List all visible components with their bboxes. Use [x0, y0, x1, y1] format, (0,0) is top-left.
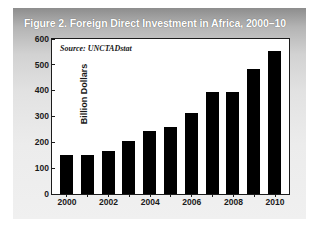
bar [164, 127, 177, 194]
y-axis-tick-label: 300 [35, 112, 49, 121]
y-axis-tick-label: 600 [35, 35, 49, 44]
bar [122, 141, 135, 194]
x-axis-tick-mark [212, 194, 213, 197]
y-axis-tick-label: 200 [35, 138, 49, 147]
bar-slot [98, 39, 119, 194]
bar [226, 92, 239, 194]
x-axis-tick-mark [254, 194, 255, 197]
bar [185, 113, 198, 194]
bar-slot [202, 39, 223, 194]
figure-title: Figure 2. Foreign Direct Investment in A… [24, 17, 286, 29]
bar-slot [160, 39, 181, 194]
x-axis-tick-mark [129, 194, 130, 197]
bar [247, 69, 260, 194]
plot-area: Source: UNCTADstat Billion Dollars 01002… [51, 38, 290, 195]
x-axis-tick-mark [87, 194, 88, 197]
bar-slot [139, 39, 160, 194]
bar-slot [264, 39, 285, 194]
bar [268, 51, 281, 194]
y-axis-tick-label: 400 [35, 86, 49, 95]
bar [60, 155, 73, 194]
bar [102, 151, 115, 194]
figure-title-bar: Figure 2. Foreign Direct Investment in A… [13, 14, 306, 31]
bar-slot [243, 39, 264, 194]
bar [143, 131, 156, 194]
x-axis-tick-label: 2008 [224, 198, 243, 207]
x-axis-tick-label: 2010 [266, 198, 285, 207]
bars-layer [52, 39, 289, 194]
x-axis-tick-label: 2006 [182, 198, 201, 207]
bar-slot [77, 39, 98, 194]
y-axis-tick-label: 0 [44, 190, 49, 199]
figure-root: Figure 2. Foreign Direct Investment in A… [0, 0, 320, 241]
bar [81, 155, 94, 194]
y-axis-tick-label: 100 [35, 164, 49, 173]
x-axis-tick-mark [170, 194, 171, 197]
x-axis-tick-label: 2002 [99, 198, 118, 207]
bar [206, 92, 219, 194]
bar-slot [118, 39, 139, 194]
bar-slot [181, 39, 202, 194]
y-axis-tick-label: 500 [35, 61, 49, 70]
bar-slot [223, 39, 244, 194]
x-axis-tick-label: 2000 [57, 198, 76, 207]
x-axis-tick-label: 2004 [141, 198, 160, 207]
bar-slot [56, 39, 77, 194]
figure-panel: Figure 2. Foreign Direct Investment in A… [13, 8, 306, 219]
